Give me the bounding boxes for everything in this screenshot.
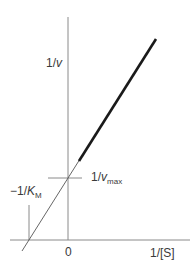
zero-tick-label: 0	[65, 246, 72, 258]
x-axis-label: 1/[S]	[150, 247, 175, 259]
data-line	[79, 39, 156, 161]
y-axis-label: 1/v	[46, 57, 62, 69]
extrapolated-line	[22, 159, 80, 251]
vmax-label: 1/vmax	[91, 171, 122, 186]
plot-area	[0, 0, 195, 269]
km-label: −1/KM	[10, 185, 42, 200]
